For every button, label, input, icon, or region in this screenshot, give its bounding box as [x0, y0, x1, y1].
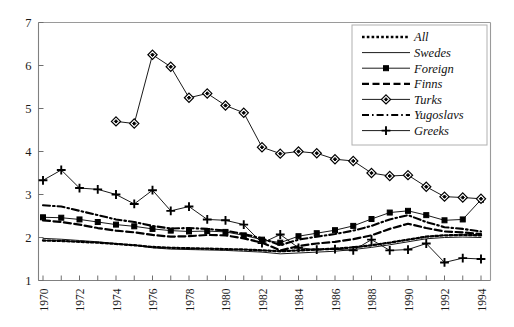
y-tick-label: 5 — [25, 102, 31, 116]
legend-item-yugoslavs[interactable]: Yugoslavs — [362, 108, 464, 122]
data-point-marker — [130, 200, 139, 209]
y-tick-label: 2 — [25, 231, 31, 245]
x-axis-labels: 1970197219741976197819801982198419861988… — [38, 288, 488, 311]
data-point-marker-core — [425, 185, 428, 188]
data-point-marker-core — [206, 92, 209, 95]
data-point-marker — [458, 254, 467, 263]
x-tick-label: 1988 — [366, 288, 378, 311]
chart-legend: AllSwedesForeignFinnsTurksYugoslavsGreek… — [352, 25, 487, 145]
legend-label: All — [413, 30, 429, 44]
data-point-marker-core — [114, 120, 117, 123]
x-tick-label: 1986 — [330, 288, 342, 311]
data-point-marker-core — [151, 53, 154, 56]
x-tick-label: 1980 — [220, 288, 232, 311]
legend-label: Greeks — [414, 124, 449, 138]
x-axis-ticks — [43, 276, 481, 281]
data-point-marker — [77, 217, 82, 222]
data-point-marker — [296, 234, 301, 239]
data-point-marker — [385, 246, 394, 255]
x-tick-label: 1990 — [403, 288, 415, 311]
data-point-marker — [382, 126, 391, 135]
data-point-marker — [351, 223, 356, 228]
y-tick-label: 1 — [25, 274, 31, 288]
data-point-marker-core — [279, 152, 282, 155]
data-point-marker — [93, 185, 102, 194]
data-point-marker-core — [479, 197, 482, 200]
legend-label: Finns — [413, 77, 443, 91]
data-point-marker — [95, 220, 100, 225]
x-tick-label: 1978 — [184, 288, 196, 311]
legend-label: Foreign — [413, 62, 454, 76]
data-point-marker-core — [388, 174, 391, 177]
data-point-marker — [276, 230, 285, 239]
data-point-marker-core — [242, 111, 245, 114]
legend-label: Swedes — [414, 46, 451, 60]
series-path — [43, 200, 481, 243]
data-point-marker — [185, 202, 194, 211]
x-tick-label: 1982 — [257, 288, 269, 311]
data-point-marker-core — [133, 122, 136, 125]
y-tick-label: 7 — [25, 16, 31, 30]
y-tick-label: 6 — [25, 59, 31, 73]
x-tick-label: 1992 — [439, 288, 451, 311]
data-point-marker — [331, 245, 340, 254]
line-chart-canvas: 1234567 19701972197419761978198019821984… — [0, 0, 514, 327]
x-tick-label: 1972 — [74, 288, 86, 311]
data-point-marker — [39, 176, 48, 185]
y-tick-label: 3 — [25, 188, 31, 202]
data-point-marker — [132, 224, 137, 229]
data-point-marker — [404, 245, 413, 254]
data-point-marker — [112, 190, 121, 199]
data-point-marker-core — [370, 171, 373, 174]
data-point-marker — [369, 217, 374, 222]
data-point-marker-core — [224, 104, 227, 107]
data-point-marker — [442, 218, 447, 223]
data-point-marker — [460, 217, 465, 222]
y-tick-label: 4 — [25, 145, 32, 159]
legend-item-finns[interactable]: Finns — [362, 77, 443, 91]
data-point-marker-core — [333, 158, 336, 161]
y-axis-ticks — [39, 23, 44, 281]
x-tick-label: 1970 — [38, 288, 50, 311]
data-point-marker — [333, 228, 338, 233]
data-point-marker — [41, 215, 46, 220]
legend-item-foreign[interactable]: Foreign — [362, 62, 454, 76]
legend-item-greeks[interactable]: Greeks — [362, 124, 449, 138]
data-point-marker-core — [315, 152, 318, 155]
legend-item-swedes[interactable]: Swedes — [362, 46, 451, 60]
data-point-marker — [221, 216, 230, 225]
data-point-marker-core — [406, 173, 409, 176]
data-point-marker — [314, 231, 319, 236]
data-point-marker — [59, 215, 64, 220]
legend-label: Turks — [414, 93, 442, 107]
series-path — [43, 170, 481, 262]
legend-label: Yugoslavs — [414, 108, 464, 122]
legend-item-turks[interactable]: Turks — [362, 93, 442, 107]
data-point-marker-core — [187, 96, 190, 99]
data-point-marker-core — [297, 150, 300, 153]
data-point-marker — [477, 255, 486, 264]
x-tick-label: 1994 — [476, 288, 488, 311]
x-tick-label: 1984 — [293, 288, 305, 311]
data-point-marker — [424, 213, 429, 218]
data-point-marker — [114, 222, 119, 227]
data-point-marker — [387, 210, 392, 215]
data-point-marker — [187, 229, 192, 234]
data-point-marker-core — [260, 146, 263, 149]
data-point-marker-core — [384, 98, 387, 101]
x-tick-label: 1976 — [147, 288, 159, 311]
data-point-marker — [406, 208, 411, 213]
data-point-marker-core — [443, 195, 446, 198]
chart-figure: 1234567 19701972197419761978198019821984… — [0, 0, 514, 327]
y-axis-labels: 1234567 — [25, 16, 32, 288]
data-point-marker — [384, 66, 389, 71]
legend-item-all[interactable]: All — [362, 30, 429, 44]
data-point-marker-core — [169, 65, 172, 68]
data-point-marker — [203, 215, 212, 224]
data-point-marker-core — [461, 196, 464, 199]
x-tick-label: 1974 — [111, 288, 123, 311]
data-point-marker-core — [352, 159, 355, 162]
